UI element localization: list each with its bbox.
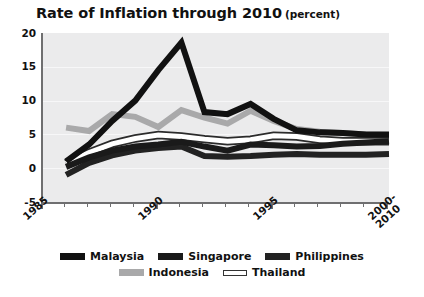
x-tick-minor-1994 xyxy=(248,202,249,207)
x-tick-minor-1988 xyxy=(110,202,111,207)
series-lines xyxy=(43,33,389,202)
legend-item-indonesia[interactable]: Indonesia xyxy=(119,266,209,279)
legend-label-malaysia: Malaysia xyxy=(90,250,144,263)
y-tick-15: 15 xyxy=(21,61,36,71)
inflation-chart-figure: Rate of Inflation through 2010(percent) … xyxy=(0,0,424,297)
x-tick-minor-1997 xyxy=(317,202,318,207)
x-tick-minor-1993 xyxy=(225,202,226,207)
legend-swatch-singapore xyxy=(158,253,183,260)
legend-item-malaysia[interactable]: Malaysia xyxy=(60,250,144,263)
legend-row-1: Malaysia Singapore Philippines xyxy=(0,250,424,263)
legend-swatch-indonesia xyxy=(119,269,144,276)
legend-label-singapore: Singapore xyxy=(188,250,251,263)
x-tick-minor-1998 xyxy=(340,202,341,207)
x-tick-minor-1991 xyxy=(179,202,180,207)
plot-area xyxy=(41,33,389,204)
y-tick-10: 10 xyxy=(21,95,36,105)
y-tick-20: 20 xyxy=(21,28,36,38)
x-tick-minor-1999 xyxy=(363,202,364,207)
page-title: Rate of Inflation through 2010 xyxy=(36,5,282,21)
y-tick-0: 0 xyxy=(29,163,36,173)
x-tick-minor-1987 xyxy=(87,202,88,207)
chart-title-row: Rate of Inflation through 2010(percent) xyxy=(36,4,340,22)
legend-row-2: Indonesia Thailand xyxy=(0,266,424,279)
x-tick-minor-1996 xyxy=(294,202,295,207)
legend-item-philippines[interactable]: Philippines xyxy=(265,250,364,263)
legend-item-thailand[interactable]: Thailand xyxy=(223,266,305,279)
x-tick-minor-1989 xyxy=(133,202,134,207)
x-tick-minor-1992 xyxy=(202,202,203,207)
legend-item-singapore[interactable]: Singapore xyxy=(158,250,251,263)
x-tick-minor-1986 xyxy=(64,202,65,207)
legend-swatch-thailand xyxy=(223,270,247,276)
y-tick-5: 5 xyxy=(29,129,36,139)
legend-label-indonesia: Indonesia xyxy=(149,266,209,279)
legend-swatch-malaysia xyxy=(60,253,85,260)
chart-subtitle: (percent) xyxy=(285,8,340,20)
legend-label-thailand: Thailand xyxy=(252,266,305,279)
chart-legend: Malaysia Singapore Philippines Indonesia… xyxy=(0,250,424,282)
legend-label-philippines: Philippines xyxy=(295,250,364,263)
legend-swatch-philippines xyxy=(265,253,290,260)
